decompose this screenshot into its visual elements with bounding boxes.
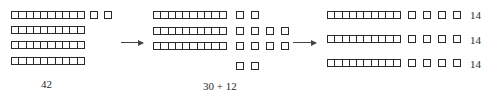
unit-cube <box>266 42 274 50</box>
unit-cube <box>266 27 274 35</box>
ten-rod <box>327 11 401 19</box>
unit-cube <box>236 42 244 50</box>
ten-rod <box>11 41 85 49</box>
unit-cube <box>453 59 461 67</box>
base-ten-division-diagram: 42 30 + 12 <box>0 0 493 99</box>
unit-cube <box>453 35 461 43</box>
ten-rod <box>153 42 227 50</box>
unit-cube <box>90 11 98 19</box>
ten-rod <box>153 11 227 19</box>
stage-label-initial: 42 <box>41 78 52 90</box>
unit-cube <box>281 27 289 35</box>
unit-cube <box>423 11 431 19</box>
unit-cube <box>438 59 446 67</box>
unit-cube <box>408 59 416 67</box>
unit-cube <box>281 42 289 50</box>
unit-cube <box>423 35 431 43</box>
unit-cube <box>251 27 259 35</box>
ten-rod <box>327 35 401 43</box>
unit-cube <box>408 11 416 19</box>
unit-cube <box>408 35 416 43</box>
group-label: 14 <box>470 9 481 21</box>
unit-cube <box>251 11 259 19</box>
arrow-right-icon <box>293 42 316 43</box>
group-label: 14 <box>470 58 481 70</box>
stage-label-regrouped: 30 + 12 <box>203 80 237 92</box>
ten-rod <box>327 59 401 67</box>
ten-rod <box>11 26 85 34</box>
unit-cube <box>438 11 446 19</box>
unit-cube <box>236 11 244 19</box>
arrow-right-icon <box>121 42 143 43</box>
unit-cube <box>453 11 461 19</box>
unit-cube <box>251 62 259 70</box>
unit-cube <box>236 62 244 70</box>
unit-cube <box>104 11 112 19</box>
ten-rod <box>11 57 85 65</box>
ten-rod <box>153 27 227 35</box>
unit-cube <box>251 42 259 50</box>
unit-cube <box>438 35 446 43</box>
unit-cube <box>423 59 431 67</box>
ten-rod <box>11 11 85 19</box>
unit-cube <box>236 27 244 35</box>
group-label: 14 <box>470 34 481 46</box>
